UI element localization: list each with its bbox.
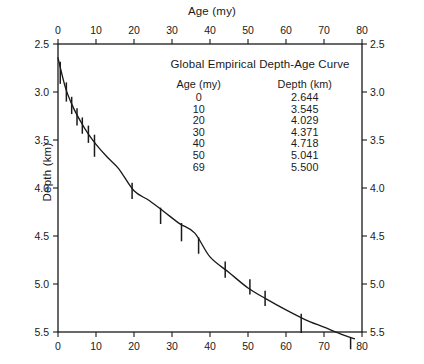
x-tick-label-bottom: 70 [318, 340, 330, 352]
cell-age: 50 [150, 150, 248, 162]
table-row: 103.545 [150, 104, 362, 116]
chart-legend: Global Empirical Depth-Age Curve Age (my… [150, 58, 362, 173]
x-tick-label-top: 20 [128, 24, 140, 36]
depth-age-table: Age (my) Depth (km) 02.644103.545204.029… [150, 78, 362, 173]
cell-depth: 2.644 [248, 92, 362, 104]
chart-title: Global Empirical Depth-Age Curve [158, 58, 362, 70]
table-header-row: Age (my) Depth (km) [150, 78, 362, 92]
depth-age-chart-figure: Age (my) Depth (km) 01020304050607080010… [0, 0, 424, 364]
y-tick-label-right: 5.5 [370, 326, 385, 338]
y-tick-label-left: 4.0 [21, 182, 49, 194]
y-tick-label-right: 4.5 [370, 230, 385, 242]
x-tick-label-top: 60 [280, 24, 292, 36]
x-tick-label-bottom: 50 [242, 340, 254, 352]
cell-depth: 5.041 [248, 150, 362, 162]
plot-area [0, 0, 424, 364]
x-tick-label-top: 50 [242, 24, 254, 36]
x-tick-label-top: 0 [55, 24, 61, 36]
x-tick-label-bottom: 20 [128, 340, 140, 352]
y-tick-label-right: 5.0 [370, 278, 385, 290]
x-tick-label-bottom: 10 [90, 340, 102, 352]
table-row: 505.041 [150, 150, 362, 162]
cell-depth: 5.500 [248, 162, 362, 174]
y-tick-label-right: 2.5 [370, 38, 385, 50]
column-header-depth: Depth (km) [248, 78, 362, 92]
table-row: 404.718 [150, 138, 362, 150]
y-tick-label-left: 4.5 [21, 230, 49, 242]
x-tick-label-top: 10 [90, 24, 102, 36]
y-tick-label-left: 3.0 [21, 86, 49, 98]
y-tick-label-right: 3.0 [370, 86, 385, 98]
y-tick-label-left: 3.5 [21, 134, 49, 146]
y-tick-label-left: 5.0 [21, 278, 49, 290]
x-tick-label-bottom: 80 [356, 340, 368, 352]
column-header-age: Age (my) [150, 78, 248, 92]
cell-age: 69 [150, 162, 248, 174]
table-row: 304.371 [150, 127, 362, 139]
table-body: 02.644103.545204.029304.371404.718505.04… [150, 92, 362, 173]
x-tick-label-top: 70 [318, 24, 330, 36]
table-row: 02.644 [150, 92, 362, 104]
table-row: 204.029 [150, 115, 362, 127]
y-tick-label-right: 4.0 [370, 182, 385, 194]
x-tick-label-bottom: 60 [280, 340, 292, 352]
x-tick-label-bottom: 0 [55, 340, 61, 352]
cell-age: 0 [150, 92, 248, 104]
y-tick-label-left: 2.5 [21, 38, 49, 50]
y-tick-label-right: 3.5 [370, 134, 385, 146]
table-row: 695.500 [150, 162, 362, 174]
x-tick-label-bottom: 40 [204, 340, 216, 352]
x-tick-label-top: 30 [166, 24, 178, 36]
x-tick-label-bottom: 30 [166, 340, 178, 352]
x-tick-label-top: 80 [356, 24, 368, 36]
y-tick-label-left: 5.5 [21, 326, 49, 338]
x-tick-label-top: 40 [204, 24, 216, 36]
